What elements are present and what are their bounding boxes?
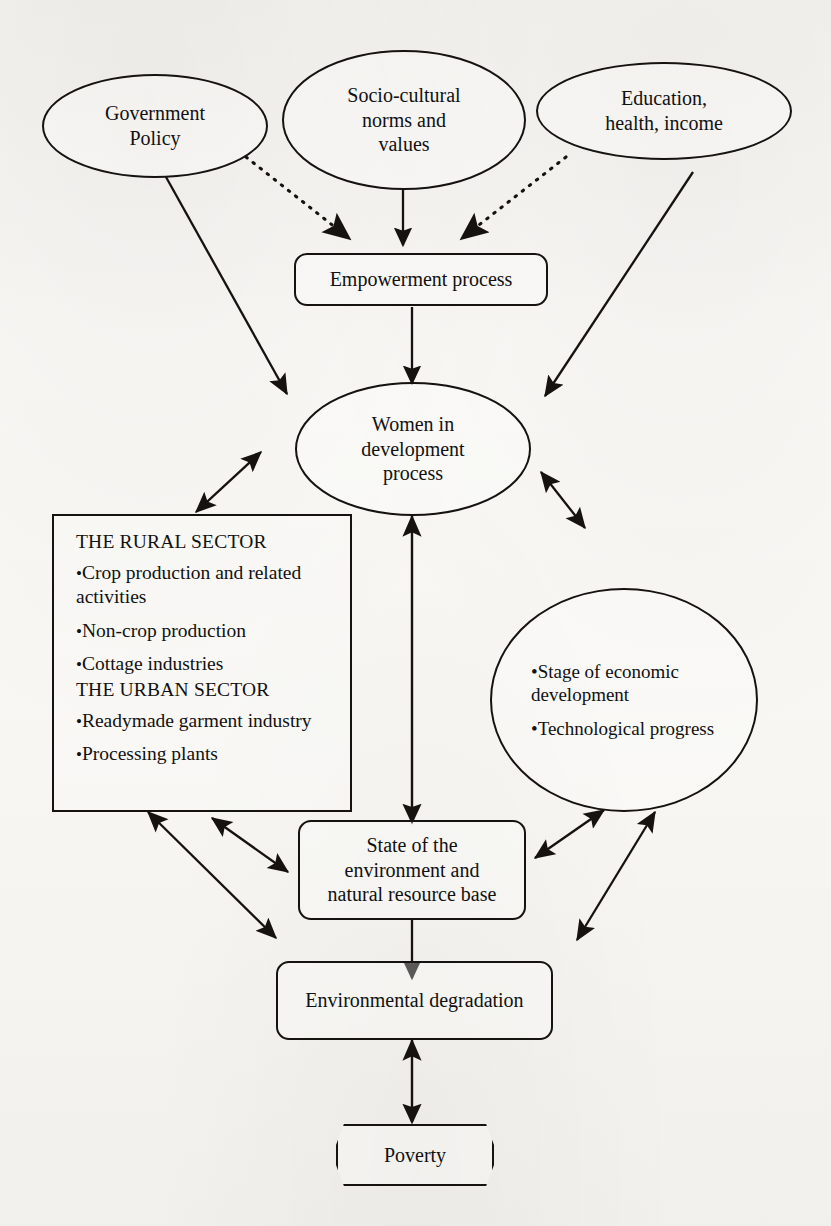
bullet-icon: • (531, 718, 538, 739)
node-government-policy-label: Government Policy (105, 101, 205, 151)
node-women-in-development[interactable]: Women in development process (295, 382, 531, 516)
sector-urban-item-1-text: Processing plants (82, 743, 218, 764)
node-empowerment-process-label: Empowerment process (330, 267, 513, 292)
sector-urban-item-0: •Readymade garment industry (76, 709, 334, 733)
edge-sectorbox-stateofenv (212, 818, 288, 872)
economic-item-1: •Technological progress (531, 717, 717, 740)
edge-economic-envdegradation (577, 812, 655, 940)
node-education-health-income[interactable]: Education, health, income (536, 62, 792, 160)
economic-item-1-text: Technological progress (538, 718, 714, 739)
sector-rural-item-1-text: Non-crop production (82, 620, 246, 641)
sector-urban-item-0-text: Readymade garment industry (82, 710, 312, 731)
sector-rural-item-0-text: Crop production and related activities (76, 562, 301, 607)
bullet-icon: • (531, 661, 538, 682)
sector-rural-item-2: •Cottage industries (76, 652, 334, 676)
node-state-of-environment[interactable]: State of the environment and natural res… (298, 820, 526, 920)
economic-ellipse-list: •Stage of economic development •Technolo… (531, 660, 717, 741)
economic-item-0-text: Stage of economic development (531, 661, 679, 705)
node-environmental-degradation[interactable]: Environmental degradation (276, 961, 553, 1040)
sector-rural-item-2-text: Cottage industries (82, 653, 223, 674)
node-socio-cultural-label: Socio-cultural norms and values (347, 83, 460, 157)
diagram-canvas: Empowerment box (left arrowhead) --> Emp… (0, 0, 831, 1226)
edge-economic-stateofenv (535, 810, 604, 858)
edge-sectorbox-envdegradation (148, 812, 276, 938)
edge-women-economic (541, 472, 585, 528)
poverty-shape: Poverty (336, 1124, 494, 1186)
node-empowerment-process[interactable]: Empowerment process (294, 253, 548, 306)
node-state-of-environment-label: State of the environment and natural res… (328, 833, 497, 907)
node-government-policy[interactable]: Government Policy (42, 74, 268, 178)
node-environmental-degradation-label: Environmental degradation (305, 988, 523, 1013)
node-education-health-income-label: Education, health, income (605, 86, 723, 136)
node-poverty-label: Poverty (384, 1143, 446, 1168)
economic-item-0: •Stage of economic development (531, 660, 717, 706)
sector-rural-item-1: •Non-crop production (76, 619, 334, 643)
node-poverty[interactable]: Poverty (336, 1124, 494, 1186)
sector-urban-heading: THE URBAN SECTOR (76, 678, 334, 702)
node-women-in-development-label: Women in development process (361, 412, 464, 486)
sector-rural-item-0: •Crop production and related activities (76, 561, 334, 609)
edge-women-sectorbox (196, 452, 261, 512)
sector-rural-heading: THE RURAL SECTOR (76, 530, 334, 554)
node-socio-cultural[interactable]: Socio-cultural norms and values (282, 50, 526, 190)
node-economic-ellipse[interactable]: •Stage of economic development •Technolo… (490, 588, 758, 812)
node-sector-box[interactable]: THE RURAL SECTOR •Crop production and re… (52, 514, 352, 812)
edge-education-women (545, 172, 693, 396)
sector-urban-item-1: •Processing plants (76, 742, 334, 766)
edge-govpolicy-women (166, 177, 287, 394)
